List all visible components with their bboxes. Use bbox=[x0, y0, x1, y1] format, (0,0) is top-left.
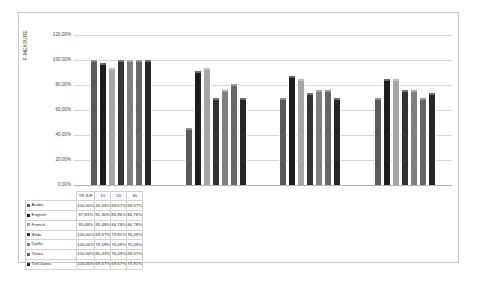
table-cell: 45,65% bbox=[95, 201, 111, 211]
bar bbox=[212, 98, 220, 185]
table-body: Arabic100,00%45,65%69,57%69,57%English97… bbox=[26, 201, 143, 269]
bar bbox=[108, 68, 116, 185]
table-row: Tenes100,00%80,43%76,09%69,57% bbox=[26, 250, 143, 260]
bar-group bbox=[358, 35, 453, 185]
bar bbox=[239, 98, 247, 185]
bar bbox=[306, 93, 314, 185]
table-cell: 93,48% bbox=[95, 220, 111, 230]
bar bbox=[288, 76, 296, 185]
table-cell: 69,57% bbox=[95, 230, 111, 240]
y-axis-tick-label: 80,00% bbox=[31, 83, 71, 88]
table-header-row: TF-IDF102030 bbox=[26, 192, 143, 201]
table-cell: 69,57% bbox=[95, 260, 111, 270]
table-row-header: English bbox=[26, 211, 77, 221]
table-cell: 76,09% bbox=[111, 250, 127, 260]
bar bbox=[117, 60, 125, 185]
table-cell: 100,00% bbox=[77, 230, 95, 240]
table-cell: 76,09% bbox=[127, 240, 143, 250]
table-row: TiziOuzou100,00%69,57%69,57%73,91% bbox=[26, 260, 143, 270]
table-row: English97,83%91,30%86,96%84,78% bbox=[26, 211, 143, 221]
bar-group bbox=[263, 35, 358, 185]
table-cell: 76,09% bbox=[111, 240, 127, 250]
table-cell: 100,00% bbox=[77, 240, 95, 250]
y-axis-title: F-MEASURE bbox=[23, 5, 28, 85]
table-row-label: French bbox=[32, 222, 46, 227]
table-row-label: English bbox=[32, 212, 46, 217]
table-cell: 84,78% bbox=[127, 220, 143, 230]
chart-card: F-MEASURE 120,00%100,00%80,00%60,00%40,0… bbox=[18, 12, 459, 263]
table-row: Arabic100,00%45,65%69,57%69,57% bbox=[26, 201, 143, 211]
bar bbox=[419, 98, 427, 185]
bar-group bbox=[169, 35, 264, 185]
bar bbox=[392, 79, 400, 185]
table-column-header: TF-IDF bbox=[77, 192, 95, 201]
table-cell: 69,57% bbox=[127, 250, 143, 260]
table-cell: 76,09% bbox=[95, 240, 111, 250]
bar-group bbox=[74, 35, 169, 185]
table-corner-cell bbox=[26, 192, 77, 201]
table-row: Blida100,00%69,57%73,91%76,09% bbox=[26, 230, 143, 240]
y-axis-tick-label: 20,00% bbox=[31, 158, 71, 163]
bar bbox=[279, 98, 287, 185]
y-axis-tick-label: 100,00% bbox=[31, 58, 71, 63]
table-cell: 100,00% bbox=[77, 250, 95, 260]
bar bbox=[383, 79, 391, 185]
table-cell: 91,30% bbox=[95, 211, 111, 221]
table-cell: 93,48% bbox=[77, 220, 95, 230]
bar bbox=[324, 90, 332, 185]
table-row-label: Arabic bbox=[32, 202, 44, 207]
table-cell: 97,83% bbox=[77, 211, 95, 221]
plot-area: F-MEASURE 120,00%100,00%80,00%60,00%40,0… bbox=[19, 13, 458, 195]
table-cell: 86,96% bbox=[111, 211, 127, 221]
table-row-header: Tenes bbox=[26, 250, 77, 260]
bar bbox=[185, 128, 193, 185]
table-row-label: Blida bbox=[32, 232, 42, 237]
bar bbox=[401, 90, 409, 185]
bar bbox=[203, 68, 211, 185]
table-row: French93,48%93,48%84,78%84,78% bbox=[26, 220, 143, 230]
bar bbox=[144, 60, 152, 185]
bar bbox=[230, 84, 238, 185]
legend-swatch-icon bbox=[27, 243, 30, 246]
table-cell: 84,78% bbox=[111, 220, 127, 230]
legend-swatch-icon bbox=[27, 253, 30, 256]
bar bbox=[194, 71, 202, 185]
table-row-label: TiziOuzou bbox=[32, 261, 52, 266]
bar bbox=[315, 90, 323, 185]
legend-swatch-icon bbox=[27, 263, 30, 266]
table-cell: 80,43% bbox=[95, 250, 111, 260]
table-cell: 84,78% bbox=[127, 211, 143, 221]
y-axis-tick-label: 120,00% bbox=[31, 33, 71, 38]
table-row-header: TiziOuzou bbox=[26, 260, 77, 270]
legend-swatch-icon bbox=[27, 214, 30, 217]
table-column-header: 30 bbox=[127, 192, 143, 201]
table-row: Djelfa100,00%76,09%76,09%76,09% bbox=[26, 240, 143, 250]
table-row-header: Djelfa bbox=[26, 240, 77, 250]
table-cell: 73,91% bbox=[127, 260, 143, 270]
bars-canvas bbox=[74, 35, 452, 185]
data-table: TF-IDF102030 Arabic100,00%45,65%69,57%69… bbox=[25, 191, 143, 270]
table-cell: 73,91% bbox=[111, 230, 127, 240]
y-axis-tick-label: 60,00% bbox=[31, 108, 71, 113]
bar bbox=[221, 90, 229, 185]
table-cell: 69,57% bbox=[111, 260, 127, 270]
table-cell: 69,57% bbox=[111, 201, 127, 211]
bar bbox=[374, 98, 382, 185]
bar bbox=[410, 90, 418, 185]
table-row-label: Tenes bbox=[32, 251, 44, 256]
table-header: TF-IDF102030 bbox=[26, 192, 143, 201]
bar bbox=[135, 60, 143, 185]
table-cell: 100,00% bbox=[77, 260, 95, 270]
legend-swatch-icon bbox=[27, 223, 30, 226]
y-axis-tick-label: 40,00% bbox=[31, 133, 71, 138]
table-column-header: 20 bbox=[111, 192, 127, 201]
bar bbox=[333, 98, 341, 185]
table-column-header: 10 bbox=[95, 192, 111, 201]
bar bbox=[297, 79, 305, 185]
bar bbox=[126, 60, 134, 185]
legend-swatch-icon bbox=[27, 204, 30, 207]
table-row-header: Blida bbox=[26, 230, 77, 240]
legend-swatch-icon bbox=[27, 233, 30, 236]
bar bbox=[90, 60, 98, 185]
table-row-label: Djelfa bbox=[32, 241, 43, 246]
